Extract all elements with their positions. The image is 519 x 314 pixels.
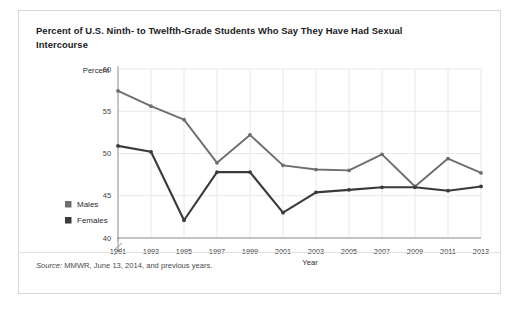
data-point-females xyxy=(149,150,153,154)
data-point-males xyxy=(281,163,285,167)
data-point-females xyxy=(116,144,120,148)
data-point-males xyxy=(215,161,219,165)
y-tick-label: 55 xyxy=(103,107,111,116)
figure-card: Percent of U.S. Ninth- to Twelfth-Grade … xyxy=(18,10,501,294)
data-point-males xyxy=(149,104,153,108)
footer-divider xyxy=(19,252,500,253)
data-point-females xyxy=(281,211,285,215)
data-point-females xyxy=(182,218,186,222)
source-text: MMWR, June 13, 2014, and previous years. xyxy=(62,261,212,270)
legend-swatch-males xyxy=(65,201,72,208)
y-tick-label: 40 xyxy=(103,234,111,243)
data-point-males xyxy=(248,133,252,137)
data-point-males xyxy=(380,152,384,156)
data-point-males xyxy=(446,157,450,161)
data-point-males xyxy=(182,118,186,122)
data-point-females xyxy=(314,190,318,194)
data-point-females xyxy=(380,185,384,189)
data-point-males xyxy=(116,89,120,93)
data-series-group xyxy=(116,89,483,222)
data-point-females xyxy=(479,185,483,189)
data-point-males xyxy=(314,168,318,172)
source-label: Source: xyxy=(36,261,62,270)
gridlines-group xyxy=(118,69,481,238)
data-point-females xyxy=(215,170,219,174)
legend-swatch-females xyxy=(65,217,72,224)
legend-label-females: Females xyxy=(77,216,108,225)
y-axis-title: Percent xyxy=(83,66,110,75)
y-tick-label: 50 xyxy=(103,149,111,158)
chart-legend: MalesFemales xyxy=(65,200,108,225)
legend-label-males: Males xyxy=(77,200,98,209)
data-point-females xyxy=(347,188,351,192)
source-note: Source: MMWR, June 13, 2014, and previou… xyxy=(36,261,212,270)
data-point-males xyxy=(479,171,483,175)
data-point-females xyxy=(413,185,417,189)
series-line-females xyxy=(118,146,481,220)
y-tick-label: 45 xyxy=(103,191,111,200)
axes-group xyxy=(114,66,481,255)
data-point-males xyxy=(347,169,351,173)
x-axis-title: Year xyxy=(302,258,318,267)
data-point-females xyxy=(248,170,252,174)
data-point-females xyxy=(446,189,450,193)
series-line-males xyxy=(118,91,481,186)
